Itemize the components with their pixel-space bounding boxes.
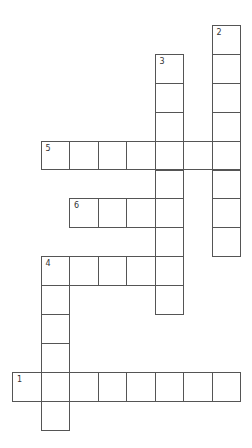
clue-number: 3 bbox=[160, 58, 165, 66]
crossword-cell[interactable] bbox=[212, 112, 242, 142]
crossword-cell[interactable] bbox=[41, 401, 71, 431]
crossword-cell[interactable] bbox=[155, 112, 185, 142]
crossword-cell[interactable] bbox=[98, 256, 128, 286]
crossword-cell[interactable] bbox=[98, 141, 128, 171]
crossword-cell[interactable] bbox=[183, 372, 213, 402]
crossword-cell[interactable] bbox=[212, 227, 242, 257]
crossword-cell[interactable] bbox=[41, 314, 71, 344]
crossword-cell[interactable] bbox=[98, 198, 128, 228]
crossword-cell[interactable] bbox=[155, 170, 185, 200]
clue-number: 6 bbox=[74, 202, 79, 210]
crossword-cell[interactable] bbox=[183, 141, 213, 171]
crossword-cell[interactable] bbox=[155, 227, 185, 257]
crossword-cell[interactable]: 5 bbox=[41, 141, 71, 171]
crossword-cell[interactable] bbox=[69, 141, 99, 171]
crossword-cell[interactable] bbox=[126, 198, 156, 228]
crossword-cell[interactable] bbox=[41, 343, 71, 373]
crossword-cell[interactable] bbox=[126, 372, 156, 402]
crossword-cell[interactable] bbox=[126, 256, 156, 286]
crossword-cell[interactable] bbox=[212, 54, 242, 84]
crossword-cell[interactable]: 4 bbox=[41, 256, 71, 286]
crossword-cell[interactable]: 6 bbox=[69, 198, 99, 228]
crossword-cell[interactable] bbox=[69, 372, 99, 402]
crossword-cell[interactable]: 1 bbox=[12, 372, 42, 402]
clue-number: 5 bbox=[46, 145, 51, 153]
crossword-cell[interactable] bbox=[155, 372, 185, 402]
crossword-cell[interactable] bbox=[155, 141, 185, 171]
crossword-cell[interactable] bbox=[212, 198, 242, 228]
crossword-cell[interactable] bbox=[155, 285, 185, 315]
crossword-grid: 123456 bbox=[0, 0, 252, 448]
crossword-cell[interactable] bbox=[69, 256, 99, 286]
crossword-cell[interactable] bbox=[212, 83, 242, 113]
crossword-cell[interactable] bbox=[126, 141, 156, 171]
crossword-cell[interactable] bbox=[41, 285, 71, 315]
crossword-cell[interactable]: 3 bbox=[155, 54, 185, 84]
crossword-cell[interactable] bbox=[155, 198, 185, 228]
crossword-cell[interactable] bbox=[41, 372, 71, 402]
crossword-cell[interactable] bbox=[155, 256, 185, 286]
crossword-cell[interactable] bbox=[212, 141, 242, 171]
clue-number: 1 bbox=[17, 376, 22, 384]
crossword-cell[interactable] bbox=[155, 83, 185, 113]
crossword-cell[interactable] bbox=[212, 170, 242, 200]
clue-number: 4 bbox=[46, 260, 51, 268]
clue-number: 2 bbox=[217, 29, 222, 37]
crossword-cell[interactable] bbox=[212, 372, 242, 402]
crossword-cell[interactable] bbox=[98, 372, 128, 402]
crossword-cell[interactable]: 2 bbox=[212, 25, 242, 55]
